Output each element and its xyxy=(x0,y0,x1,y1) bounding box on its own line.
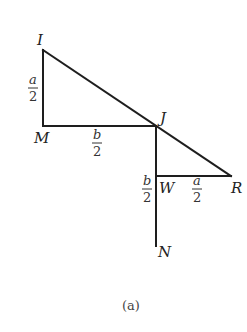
point-label-R: R xyxy=(230,179,242,197)
point-label-J: J xyxy=(157,109,167,127)
dimension-MJ: b 2 xyxy=(92,127,102,159)
figure-caption: (a) xyxy=(122,298,140,313)
dimension-IM: a 2 xyxy=(28,72,38,104)
dimension-IM-denominator: 2 xyxy=(29,89,37,104)
dimension-WR: a 2 xyxy=(192,173,202,205)
dimension-WR-numerator: a xyxy=(193,173,201,188)
dimension-JW-numerator: b xyxy=(143,173,151,188)
point-label-I: I xyxy=(36,31,44,49)
dimension-WR-denominator: 2 xyxy=(193,190,201,205)
dimension-IM-numerator: a xyxy=(29,72,37,87)
point-label-N: N xyxy=(157,243,172,261)
point-label-M: M xyxy=(33,129,50,147)
point-label-W: W xyxy=(159,179,176,197)
geometry-diagram: I M J W R N a 2 b 2 b 2 a 2 (a) xyxy=(0,0,247,332)
dimension-JW-denominator: 2 xyxy=(143,190,151,205)
dimension-MJ-numerator: b xyxy=(93,127,101,142)
dimension-JW: b 2 xyxy=(142,173,152,205)
segment-IR xyxy=(43,50,231,176)
dimension-MJ-denominator: 2 xyxy=(93,144,101,159)
